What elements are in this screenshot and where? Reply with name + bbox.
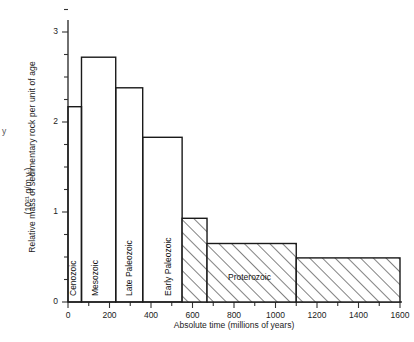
y-tick-label: 3 [44,26,58,36]
bar-label: Early Paleozoic [163,237,173,296]
x-tick-label: 1400 [344,310,374,320]
bar-label: Mesozoic [90,260,100,296]
x-axis-title: Absolute time (millions of years) [68,320,400,330]
x-tick-label: 600 [178,310,208,320]
bar-label: Proterozoic [228,272,271,282]
x-tick-label: 800 [219,310,249,320]
stray-margin-mark: y [2,126,6,136]
y-axis-title-line2: (10²¹ g/m.y.) [23,111,33,271]
y-tick-label: 0 [44,296,58,306]
bar-label: Late Paleozoic [124,240,134,296]
x-tick-label: 400 [136,310,166,320]
x-tick-label: 1000 [261,310,291,320]
x-tick-label: 1200 [302,310,332,320]
x-tick-label: 200 [95,310,125,320]
y-tick-label: 2 [44,116,58,126]
bar-label: Cenozoic [68,261,78,296]
x-tick-label: 1600 [385,310,414,320]
x-tick-label: 0 [53,310,83,320]
y-tick-label: 1 [44,206,58,216]
